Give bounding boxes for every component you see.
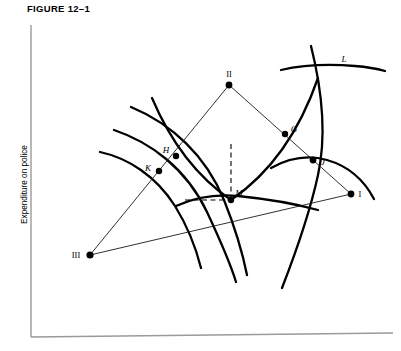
triangle-side-ii-i <box>229 85 351 194</box>
indifference-curves <box>100 46 385 288</box>
curve-ii-outer <box>152 78 318 200</box>
diagram-canvas: II I III H K G J M L <box>0 0 401 351</box>
corner-label-ii: II <box>226 69 232 79</box>
point-label-k: K <box>144 163 152 173</box>
point-ii-dot <box>226 82 233 89</box>
curve-iii-mid <box>131 107 247 275</box>
corner-point-markers <box>86 82 354 259</box>
x-axis <box>31 333 393 337</box>
point-h-dot <box>173 153 179 159</box>
point-g-dot <box>282 131 288 137</box>
point-j-dot <box>310 157 317 164</box>
curve-ii-inner <box>176 195 318 210</box>
corner-label-iii: III <box>72 250 81 260</box>
point-label-g: G <box>291 124 298 134</box>
point-iii-dot <box>86 251 93 258</box>
axes <box>31 25 393 337</box>
point-i-dot <box>348 191 355 198</box>
curve-i-top <box>281 65 385 71</box>
point-k-dot <box>156 168 162 174</box>
point-label-l: L <box>340 54 346 64</box>
point-label-m: M <box>234 188 243 198</box>
corner-label-i: I <box>359 189 362 199</box>
bargaining-triangle <box>90 85 351 255</box>
point-m-dot <box>228 197 234 203</box>
triangle-side-iii-i <box>90 194 351 255</box>
figure-page: FIGURE 12–1 Expenditure on police <box>0 0 401 351</box>
point-label-h: H <box>162 145 170 155</box>
